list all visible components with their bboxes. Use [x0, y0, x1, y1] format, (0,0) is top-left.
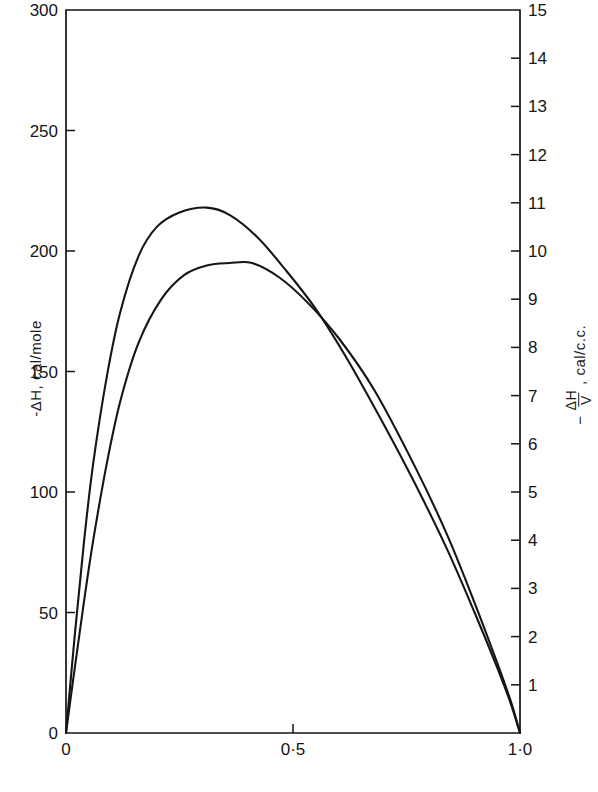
- x-tick-label: 1·0: [508, 740, 533, 759]
- right-tick-label: 14: [528, 49, 547, 68]
- left-axis-ticks: [66, 131, 75, 613]
- right-tick-label: 10: [528, 242, 547, 261]
- right-axis-fraction: ΔH V: [564, 388, 594, 412]
- right-tick-label: 4: [528, 531, 537, 550]
- right-tick-label: 2: [528, 628, 537, 647]
- right-axis-units: , cal/c.c.: [572, 325, 589, 385]
- right-tick-label: 1: [528, 676, 537, 695]
- left-tick-label: 200: [30, 242, 58, 261]
- axes-frame: [66, 10, 520, 733]
- right-tick-label: 15: [528, 1, 547, 20]
- right-axis-tick-labels: 123456789101112131415: [528, 1, 547, 695]
- right-axis-numerator: ΔH: [564, 388, 578, 412]
- right-tick-label: 5: [528, 483, 537, 502]
- x-axis-tick-labels: 00·51·0: [61, 740, 532, 759]
- right-tick-label: 3: [528, 579, 537, 598]
- left-tick-label: 100: [30, 483, 58, 502]
- right-tick-label: 13: [528, 97, 547, 116]
- curve-upper-curve: [66, 208, 520, 733]
- x-tick-label: 0: [61, 740, 70, 759]
- left-tick-label: 0: [49, 724, 58, 743]
- data-curves: [66, 208, 520, 733]
- left-tick-label: 250: [30, 122, 58, 141]
- left-axis-title: -ΔH, cal/mole: [27, 289, 44, 449]
- right-axis-denominator: V: [579, 393, 594, 407]
- right-axis-title: − ΔH V , cal/c.c.: [565, 290, 595, 460]
- left-tick-label: 300: [30, 1, 58, 20]
- right-tick-label: 11: [528, 194, 546, 213]
- curve-lower-curve: [66, 262, 520, 733]
- right-tick-label: 9: [528, 290, 537, 309]
- x-tick-label: 0·5: [281, 740, 306, 759]
- right-tick-label: 12: [528, 146, 547, 165]
- figure-container: 050100150200250300 123456789101112131415…: [0, 0, 598, 792]
- right-tick-label: 7: [528, 387, 537, 406]
- right-axis-minus-sign: −: [572, 415, 589, 424]
- right-tick-label: 8: [528, 338, 537, 357]
- chart-plot: 050100150200250300 123456789101112131415…: [0, 0, 598, 792]
- right-tick-label: 6: [528, 435, 537, 454]
- right-axis-ticks: [511, 58, 520, 685]
- left-tick-label: 50: [39, 604, 58, 623]
